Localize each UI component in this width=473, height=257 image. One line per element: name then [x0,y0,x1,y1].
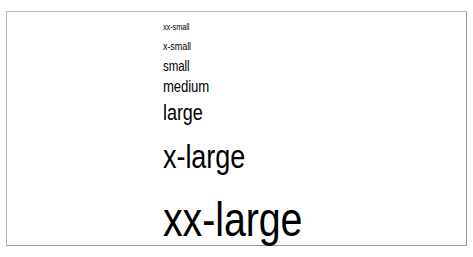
font-size-sample-x-large: x-large [163,138,245,176]
font-size-sample-xx-large: xx-large [163,192,302,247]
font-size-sample-figure: xx-small x-small small medium large x-la… [6,11,467,246]
font-size-sample-medium: medium [163,77,209,96]
font-size-sample-large: large [163,100,203,126]
font-size-sample-x-small: x-small [163,40,191,53]
font-size-sample-small: small [163,58,189,74]
font-size-sample-xx-small: xx-small [163,22,189,33]
font-size-sample-list: xx-small x-small small medium large x-la… [163,12,463,245]
